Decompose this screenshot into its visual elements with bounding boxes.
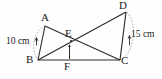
vertex-label-A: A: [41, 12, 49, 23]
vertex-label-C: C: [121, 55, 128, 66]
intersection-point-E: [70, 40, 72, 42]
arrow-marker-left: [35, 38, 38, 45]
dimension-label-left: 10 cm: [6, 37, 29, 47]
segment-AC: [45, 26, 120, 60]
vertex-label-D: D: [119, 0, 127, 11]
segment-BD: [38, 12, 126, 60]
vertex-label-E: E: [65, 28, 72, 39]
segment-DC: [120, 12, 126, 60]
geometry-figure: A B C D E F 10 cm 15 cm: [0, 0, 162, 79]
vertex-label-F: F: [64, 61, 70, 72]
vertex-label-B: B: [26, 54, 33, 65]
arrow-head-EF: [68, 44, 71, 47]
dimension-label-right: 15 cm: [131, 30, 154, 40]
segment-AB: [38, 26, 45, 60]
